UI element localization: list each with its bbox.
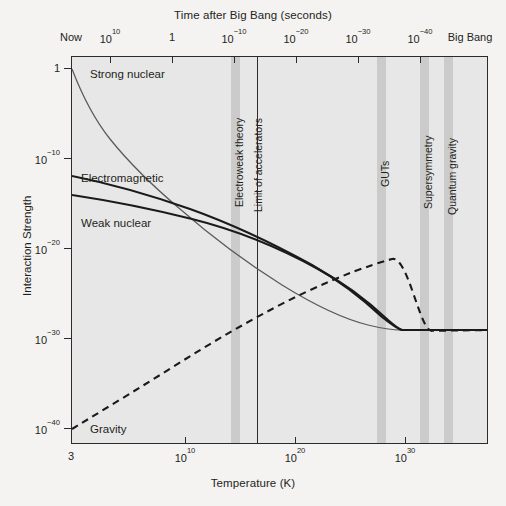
gravity-dashed (72, 259, 488, 429)
top-tick-label-big-bang: Big Bang (440, 31, 500, 43)
top-tick-label-1e-40: 10−40 (398, 31, 442, 45)
top-tick-1 (172, 56, 173, 63)
label-electromagnetic: Electromagnetic (81, 172, 163, 184)
top-tick-2 (234, 56, 235, 63)
label-strong-nuclear: Strong nuclear (90, 68, 165, 80)
top-tick-0 (110, 56, 111, 63)
bottom-tick-1e20 (295, 437, 296, 444)
plot-area: Electroweak theory Limit of accelerators… (71, 56, 488, 444)
top-tick-label-1e-20: 10−20 (274, 31, 318, 45)
bottom-tick-label-1e10: 1010 (163, 450, 207, 464)
annotation-guts: GUTs (379, 161, 391, 187)
x-axis-title: Temperature (K) (0, 478, 506, 490)
annotation-quantum-gravity: Quantum gravity (446, 138, 458, 215)
top-tick-label-1: 1 (150, 31, 194, 43)
bottom-tick-1e10 (185, 437, 186, 444)
top-tick-4 (358, 56, 359, 63)
y-tick-label-1e-40: 10−40 (10, 422, 60, 436)
top-tick-label-now: Now (49, 31, 93, 43)
top-tick-label-1e-10: 10−10 (212, 31, 256, 45)
annotation-limit-of-accelerators: Limit of accelerators (252, 118, 264, 212)
y-tick-label-1: 1 (10, 62, 60, 74)
left-tick-1e-20 (64, 248, 71, 249)
top-tick-label-1e-30: 10−30 (336, 31, 380, 45)
left-tick-1e-10 (64, 158, 71, 159)
figure-canvas: Time after Big Bang (seconds) Temperatur… (0, 0, 506, 506)
gravity-layer (72, 57, 488, 444)
left-tick-1e-30 (64, 338, 71, 339)
annotation-supersymmetry: Supersymmetry (422, 135, 434, 209)
top-tick-label-1e10: 1010 (88, 31, 132, 45)
y-tick-label-1e-30: 10−30 (10, 332, 60, 346)
bottom-tick-label-1e30: 1030 (383, 450, 427, 464)
bottom-tick-1e30 (405, 437, 406, 444)
label-gravity: Gravity (90, 423, 126, 435)
bottom-tick-label-1e20: 1020 (273, 450, 317, 464)
top-tick-3 (296, 56, 297, 63)
y-tick-label-1e-10: 10−10 (10, 152, 60, 166)
top-tick-5 (420, 56, 421, 63)
y-tick-label-1e-20: 10−20 (10, 242, 60, 256)
left-tick-1 (64, 68, 71, 69)
left-tick-1e-40 (64, 428, 71, 429)
top-axis-title: Time after Big Bang (seconds) (0, 10, 506, 22)
label-weak-nuclear: Weak nuclear (81, 217, 151, 229)
bottom-tick-label-3: 3 (53, 450, 89, 462)
annotation-electroweak-theory: Electroweak theory (233, 118, 245, 207)
